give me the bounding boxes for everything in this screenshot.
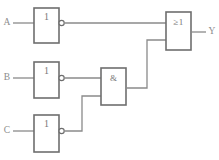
gate-or-symbol: ≥1 (173, 17, 183, 27)
gate-not-c-symbol: 1 (44, 118, 49, 129)
gate-and-symbol: & (110, 73, 117, 83)
inversion-bubble-not-c (59, 128, 64, 133)
circuit-svg: 1 1 1 & ≥1 A B C Y (0, 0, 219, 160)
input-label-b: B (4, 72, 10, 82)
inversion-bubble-not-b (59, 75, 64, 80)
input-label-c: C (4, 125, 10, 135)
gate-not-b-symbol: 1 (44, 65, 49, 76)
logic-circuit-diagram: 1 1 1 & ≥1 A B C Y (0, 0, 219, 160)
gate-not-a-symbol: 1 (44, 11, 49, 22)
wire-notc-to-and (64, 96, 101, 131)
wire-and-to-or (126, 40, 166, 88)
output-label-y: Y (209, 26, 216, 36)
input-label-a: A (4, 17, 11, 27)
inversion-bubble-not-a (59, 20, 64, 25)
